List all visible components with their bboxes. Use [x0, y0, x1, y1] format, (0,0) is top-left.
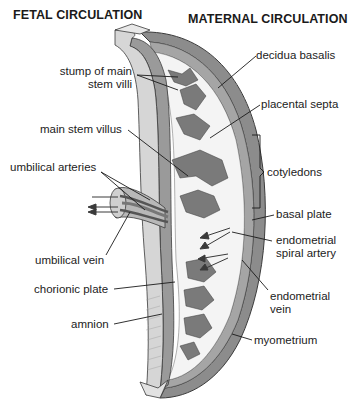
label-umbilical-vein: umbilical vein: [35, 254, 104, 267]
label-spiral-artery-line2: spiral artery: [276, 247, 336, 260]
label-basal-plate: basal plate: [276, 208, 332, 221]
label-main-stem-villus: main stem villus: [40, 123, 122, 136]
label-vein-line2: vein: [270, 303, 330, 316]
label-stump-of-main-stem-villi: stump of main stem villi: [30, 65, 132, 91]
label-endometrial-spiral-artery: endometrial spiral artery: [276, 234, 336, 260]
label-decidua-basalis: decidua basalis: [256, 49, 335, 62]
label-chorionic-plate: chorionic plate: [34, 283, 108, 296]
label-endometrial-vein: endometrial vein: [270, 290, 330, 316]
label-stump-line1: stump of main: [30, 65, 132, 78]
heading-fetal-circulation: FETAL CIRCULATION: [13, 8, 142, 22]
label-amnion: amnion: [71, 318, 109, 331]
label-placental-septa: placental septa: [261, 98, 338, 111]
label-umbilical-arteries: umbilical arteries: [10, 161, 96, 174]
heading-maternal-circulation: MATERNAL CIRCULATION: [188, 12, 348, 26]
label-myometrium: myometrium: [254, 334, 317, 347]
label-stump-line2: stem villi: [30, 78, 132, 91]
label-cotyledons: cotyledons: [267, 166, 322, 179]
label-vein-line1: endometrial: [270, 290, 330, 303]
label-spiral-artery-line1: endometrial: [276, 234, 336, 247]
